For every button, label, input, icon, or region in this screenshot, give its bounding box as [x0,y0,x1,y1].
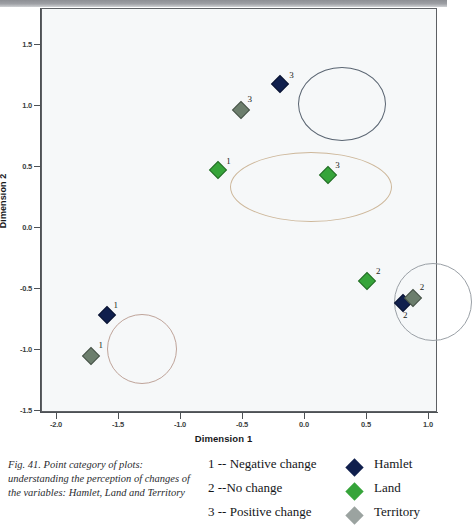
y-axis-tick [34,288,40,289]
x-axis-tick [118,413,119,419]
data-point-territory-1[interactable] [82,347,100,365]
x-axis-tick-label: 0.0 [287,420,321,429]
data-point-land-3[interactable] [318,165,336,183]
x-axis-line [41,412,438,413]
x-axis-tick-label: -1.0 [163,420,197,429]
data-point-label: 3 [335,160,340,170]
data-point-label: 3 [289,70,294,80]
legend-variable-label: Hamlet [374,456,412,472]
data-point-land-1[interactable] [209,160,227,178]
legend-category-label: 2 --No change [208,480,282,496]
legend-row: 1 -- Negative changeHamlet [208,456,447,480]
x-axis-tick [428,413,429,419]
negative-change-cluster [230,152,392,222]
data-point-label: 3 [248,94,253,104]
x-axis-tick [180,413,181,419]
data-point-label: 1 [98,340,103,350]
y-axis-title: Dimension 2 [0,174,8,229]
y-axis-tick-label: 0.0 [2,223,32,232]
legend-variable-label: Land [374,480,401,496]
legend-row: 3 -- Positive changeTerritory [208,504,447,528]
x-axis-tick-label: 1.0 [411,420,445,429]
plot-canvas: 321132321 [42,9,436,411]
y-axis-tick-label: 1.0 [2,101,32,110]
x-axis-tick-label: -1.5 [101,420,135,429]
y-axis-tick [34,44,40,45]
x-axis-tick-label: -2.0 [39,420,73,429]
y-axis-tick-label: 1.5 [2,40,32,49]
scatter-plot-figure: 321132321 Dimension 2 1.51.00.50.0-0.5-1… [0,0,447,450]
data-point-hamlet-3[interactable] [271,75,289,93]
hamlet-negative-cluster [107,314,177,384]
legend-diamond-icon [345,506,363,524]
y-axis-tick-label: -0.5 [2,284,32,293]
legend-diamond-icon [345,482,363,500]
legend-variable-label: Territory [374,504,420,520]
data-point-land-2[interactable] [358,271,376,289]
legend-category-label: 3 -- Positive change [208,504,312,520]
data-point-label: 1 [226,156,231,166]
y-axis-tick-label: -1.5 [2,406,32,415]
figure-caption: Fig. 41. Point category of plots: unders… [8,458,194,501]
y-axis-line [40,8,41,413]
positive-change-cluster [298,67,386,141]
x-axis-title: Dimension 1 [0,433,447,444]
plot-area: 321132321 [41,8,437,412]
legend-category-label: 1 -- Negative change [208,456,317,472]
y-axis-tick [34,349,40,350]
x-axis-tick-label: -0.5 [225,420,259,429]
x-axis-tick [366,413,367,419]
x-axis-tick-label: 0.5 [349,420,383,429]
y-axis-tick [34,410,40,411]
x-axis-tick [242,413,243,419]
data-point-label: 1 [114,300,119,310]
legend-row: 2 --No changeLand [208,480,447,504]
y-axis-tick [34,105,40,106]
x-axis-tick [304,413,305,419]
figure-legend: 1 -- Negative changeHamlet2 --No changeL… [208,456,447,528]
y-axis-tick [34,227,40,228]
legend-diamond-icon [345,458,363,476]
data-point-label: 2 [403,310,408,320]
y-axis-tick-label: 0.5 [2,162,32,171]
y-axis-tick-label: -1.0 [2,345,32,354]
data-point-label: 2 [420,282,425,292]
y-axis-tick [34,166,40,167]
x-axis-tick [56,413,57,419]
data-point-label: 2 [376,266,381,276]
